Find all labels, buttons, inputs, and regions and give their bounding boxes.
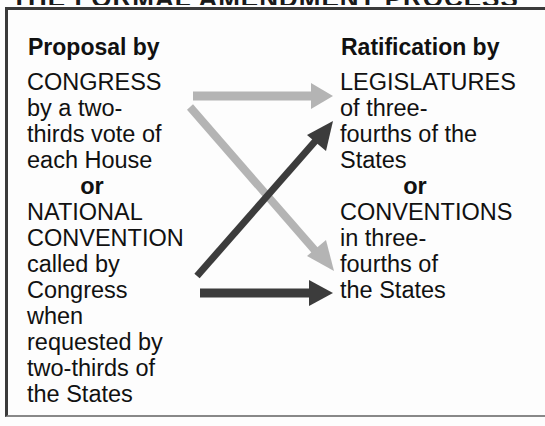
arrow-convention-to-conventions-icon xyxy=(200,280,333,306)
arrow-congress-to-legislatures-icon xyxy=(193,83,333,109)
arrow-congress-to-conventions-icon xyxy=(190,107,334,271)
